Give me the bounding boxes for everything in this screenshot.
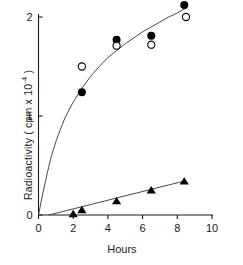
data-point-open-circle (78, 63, 85, 70)
x-axis-tick-labels: 0246810 (35, 222, 218, 234)
data-point-filled-circle (78, 88, 86, 96)
x-tick-label: 4 (105, 222, 111, 234)
x-tick-label: 10 (206, 222, 218, 234)
data-point-filled-triangle (180, 177, 189, 184)
data-point-filled-triangle (69, 210, 78, 217)
data-point-filled-triangle (112, 197, 121, 204)
y-axis-tick-labels: 012 (26, 11, 32, 221)
y-tick-label: 1 (26, 110, 32, 122)
data-point-open-circle (182, 13, 189, 20)
saturating-curve (39, 8, 186, 215)
x-tick-label: 2 (70, 222, 76, 234)
x-tick-label: 0 (35, 222, 41, 234)
data-point-filled-circle (180, 1, 188, 9)
y-axis-ticks (39, 17, 43, 215)
y-tick-label: 2 (26, 11, 32, 23)
x-tick-label: 8 (174, 222, 180, 234)
chart-figure: 0246810 012 Radioactivity ( cpm x 10-4 )… (0, 0, 243, 265)
x-axis-ticks (39, 215, 213, 219)
x-tick-label: 6 (140, 222, 146, 234)
data-point-filled-circle (147, 32, 155, 40)
fitted-curves (39, 8, 186, 215)
y-tick-label: 0 (26, 209, 32, 221)
data-point-open-circle (113, 42, 120, 49)
data-point-filled-triangle (77, 206, 86, 213)
chart-canvas: 0246810 012 (0, 0, 243, 265)
data-point-open-circle (148, 41, 155, 48)
